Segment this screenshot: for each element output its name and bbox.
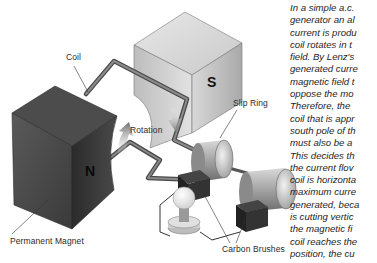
text-line: position, the cu [290,248,377,260]
text-line: magnetic field t [290,76,377,88]
text-line: is cutting vertic [290,211,377,223]
text-line: This decides th [290,150,377,162]
permanent-magnet-label: Permanent Magnet [10,236,84,246]
north-pole-label: N [85,163,95,179]
rotation-label: Rotation [130,125,162,135]
ac-generator-figure: Coil Rotation Slip Ring Permanent Magnet… [0,0,300,263]
north-magnet [12,86,117,229]
text-line: coil that is appr [290,113,377,125]
text-line: field. By Lenz's [290,51,377,63]
text-line: maximum curre [290,186,377,198]
text-line: south pole of th [290,125,377,137]
text-line: coil rotates in t [290,39,377,51]
text-line: current is produ [290,27,377,39]
text-line: generated curre [290,63,377,75]
text-line: In a simple a.c. [290,2,377,14]
text-line: the current flov [290,162,377,174]
south-pole-label: S [207,74,216,90]
text-line: generator an al [290,14,377,26]
slip-ring-label: Slip Ring [233,98,268,108]
carbon-brush-2 [236,200,268,232]
text-line: must also be a [290,137,377,149]
coil-label: Coil [66,52,81,62]
text-line: coil is horizonta [290,174,377,186]
carbon-brushes-label: Carbon Brushes [222,244,285,254]
text-line: the magnetic fi [290,223,377,235]
explanation-paragraph: In a simple a.c. generator an al current… [290,2,377,260]
text-line: Therefore, the [290,100,377,112]
text-line: generated, beca [290,199,377,211]
text-line: oppose the mo [290,88,377,100]
text-line: coil reaches the [290,236,377,248]
